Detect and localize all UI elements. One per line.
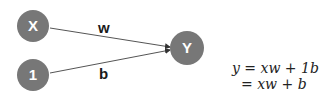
node-y-label: Y: [182, 39, 192, 56]
edge-1-to-y: [50, 50, 170, 73]
node-1-label: 1: [29, 66, 37, 83]
equation-line-2: = xw + b: [241, 76, 307, 93]
equation-line-1: y = xw + 1b: [232, 60, 319, 77]
node-x-label: X: [28, 17, 38, 34]
edge-label-w: w: [97, 19, 110, 36]
edge-x-to-y: [50, 28, 170, 47]
node-1: 1: [17, 59, 49, 91]
edge-label-b: b: [99, 65, 108, 82]
node-x: X: [17, 10, 49, 42]
node-y: Y: [170, 31, 204, 65]
